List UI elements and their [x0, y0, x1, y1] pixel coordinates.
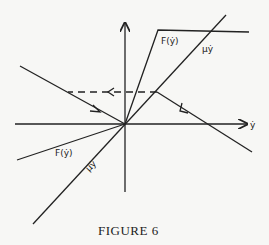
label-f-lower: F(ẏ) [55, 148, 73, 158]
trajectory-right [157, 92, 252, 152]
friction-curve-upper [125, 30, 249, 124]
label-x-axis: ẏ [250, 120, 256, 130]
label-mu-upper: μẏ [202, 44, 214, 54]
label-mu-lower: μẏ [83, 158, 98, 173]
figure-diagram: F(ẏ) μẏ F(ẏ) μẏ ẏ FIGURE 6 [0, 0, 269, 245]
arrow-dashed-icon [108, 88, 114, 96]
trajectory-left [20, 66, 125, 124]
figure-caption: FIGURE 6 [98, 223, 159, 238]
mu-line [33, 15, 226, 224]
label-f-upper: F(ẏ) [161, 36, 179, 46]
